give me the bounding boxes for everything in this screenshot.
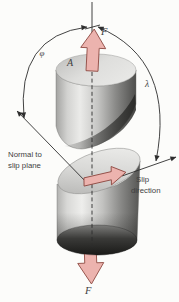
diagram-canvas: F A φ λ Normal to slip plane Slip direct… bbox=[0, 0, 179, 302]
axis-tick bbox=[85, 25, 100, 29]
svg-text:slip plane: slip plane bbox=[8, 161, 41, 170]
lambda-angle-label: λ bbox=[144, 79, 149, 89]
svg-text:Normal to: Normal to bbox=[8, 150, 42, 159]
normal-to-slip-plane-label: Normal to slip plane bbox=[8, 150, 42, 170]
cylinder-bottom-face bbox=[57, 225, 137, 255]
force-label-top: F bbox=[100, 26, 108, 37]
svg-text:direction: direction bbox=[131, 186, 160, 195]
cross-section-area-label: A bbox=[66, 57, 74, 68]
slip-geometry-diagram: F A φ λ Normal to slip plane Slip direct… bbox=[0, 0, 179, 302]
lower-crystal-cylinder bbox=[52, 139, 146, 284]
svg-text:Slip: Slip bbox=[136, 175, 150, 184]
phi-angle-label: φ bbox=[40, 48, 45, 58]
force-label-bottom: F bbox=[84, 285, 92, 296]
